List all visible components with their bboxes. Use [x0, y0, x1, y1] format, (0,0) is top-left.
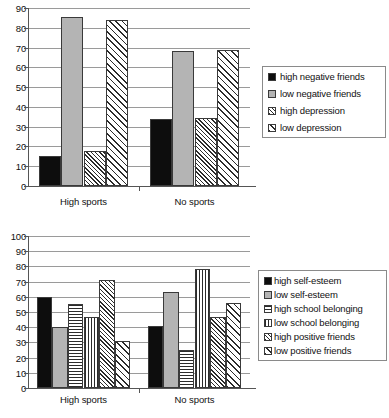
legend-swatch-icon [264, 291, 272, 299]
x-axis-category-label: High sports [28, 394, 139, 405]
legend-swatch-icon [264, 277, 272, 285]
chart-negative-friends-depression: 0102030405060708090 High sportsNo sports… [0, 0, 389, 222]
legend-item-label: low negative friends [280, 88, 361, 99]
bar [163, 292, 179, 388]
bar [84, 317, 100, 388]
bar [148, 326, 164, 388]
legend-item-label: high depression [280, 105, 345, 116]
legend-item: high negative friends [268, 71, 381, 82]
legend-item-label: low self-esteem [274, 289, 338, 300]
legend-swatch-icon [264, 305, 272, 313]
x-axis-group-separator [139, 186, 140, 191]
gridline [28, 297, 250, 298]
y-axis-line [28, 236, 29, 388]
bar [150, 119, 172, 186]
legend-item: high self-esteem [264, 275, 382, 286]
bar [195, 269, 211, 388]
bar [68, 304, 84, 388]
legend-item-label: low positive friends [274, 345, 351, 356]
legend-item: low depression [268, 122, 381, 133]
bar [37, 297, 53, 388]
bar [99, 280, 115, 388]
x-axis-category-label: High sports [28, 196, 139, 207]
bar [39, 156, 61, 186]
bar [172, 51, 194, 186]
legend-swatch-icon [264, 347, 272, 355]
legend-item-label: high positive friends [274, 331, 355, 342]
bar [226, 303, 242, 388]
bar [195, 118, 217, 186]
x-axis-category-label: No sports [139, 394, 250, 405]
legend-item-label: high school belonging [274, 303, 363, 314]
x-axis-category-label: No sports [139, 196, 250, 207]
gridline [28, 8, 250, 9]
legend-item: low positive friends [264, 345, 382, 356]
bar [210, 317, 226, 388]
gridline [28, 251, 250, 252]
legend-swatch-icon [268, 90, 276, 98]
bar [217, 50, 239, 186]
legend-swatch-icon [268, 124, 276, 132]
plot-area-top [28, 8, 250, 186]
gridline [28, 312, 250, 313]
plot-area-bottom [28, 236, 250, 388]
legend-item-label: low school belonging [274, 317, 359, 328]
legend-swatch-icon [268, 107, 276, 115]
gridline [28, 266, 250, 267]
x-axis-line [28, 186, 256, 187]
legend-item: high positive friends [264, 331, 382, 342]
legend-swatch-icon [264, 333, 272, 341]
gridline [28, 236, 250, 237]
gridline [28, 282, 250, 283]
legend-top: high negative friendslow negative friend… [262, 66, 386, 138]
bar [179, 350, 195, 388]
y-axis-line [28, 8, 29, 186]
x-axis-line [28, 388, 256, 389]
legend-swatch-icon [264, 319, 272, 327]
legend-item: high depression [268, 105, 381, 116]
bar [61, 17, 83, 186]
legend-item: low negative friends [268, 88, 381, 99]
legend-bottom: high self-esteemlow self-esteemhigh scho… [258, 270, 387, 361]
bar [106, 20, 128, 186]
legend-item: high school belonging [264, 303, 382, 314]
legend-item-label: low depression [280, 122, 341, 133]
legend-item: low school belonging [264, 317, 382, 328]
legend-item-label: high self-esteem [274, 275, 341, 286]
bar [52, 327, 68, 388]
bar [84, 151, 106, 186]
legend-item: low self-esteem [264, 289, 382, 300]
legend-item-label: high negative friends [280, 71, 365, 82]
chart-self-esteem-belonging-friends: 0102030405060708090100 High sportsNo spo… [0, 230, 389, 418]
legend-swatch-icon [268, 73, 276, 81]
bar [115, 341, 131, 388]
x-axis-group-separator [139, 388, 140, 393]
